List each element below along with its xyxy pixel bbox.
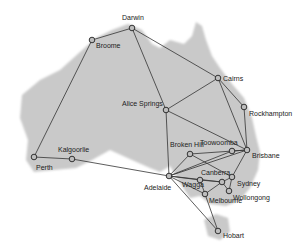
label-hobart: Hobart xyxy=(223,232,244,239)
node-broome[interactable] xyxy=(89,37,95,43)
label-perth: Perth xyxy=(36,164,53,171)
label-darwin: Darwin xyxy=(122,14,144,21)
label-alice: Alice Springs xyxy=(122,100,163,108)
node-cairns[interactable] xyxy=(215,75,221,81)
label-kalgoorlie: Kalgoorlie xyxy=(58,146,89,154)
node-alice[interactable] xyxy=(163,107,169,113)
label-canberra: Canberra xyxy=(201,169,230,176)
label-cairns: Cairns xyxy=(223,75,244,82)
australia-map: DarwinBroomeCairnsRockhamptonAlice Sprin… xyxy=(0,0,301,251)
node-brokenhill[interactable] xyxy=(187,151,193,157)
label-brokenhill: Broken Hill xyxy=(170,141,204,148)
label-wagga: Wagga xyxy=(182,181,204,189)
label-brisbane: Brisbane xyxy=(252,152,280,159)
label-toowoomba: Toowoomba xyxy=(200,139,238,146)
label-rockhampton: Rockhampton xyxy=(249,110,292,118)
node-kalgoorlie[interactable] xyxy=(69,156,75,162)
node-wollongong[interactable] xyxy=(226,188,232,194)
node-brisbane[interactable] xyxy=(244,147,250,153)
label-melbourne: Melbourne xyxy=(209,197,242,204)
node-perth[interactable] xyxy=(31,154,37,160)
network-map: DarwinBroomeCairnsRockhamptonAlice Sprin… xyxy=(0,0,301,251)
landmass xyxy=(20,22,260,240)
node-melbourne[interactable] xyxy=(202,191,208,197)
node-darwin[interactable] xyxy=(129,25,135,31)
label-sydney: Sydney xyxy=(237,180,261,188)
node-rockhampton[interactable] xyxy=(241,104,247,110)
node-canberra[interactable] xyxy=(219,179,225,185)
node-hobart[interactable] xyxy=(215,228,221,234)
mainland-shape xyxy=(20,22,260,206)
node-adelaide[interactable] xyxy=(166,173,172,179)
label-adelaide: Adelaide xyxy=(144,184,171,191)
label-broome: Broome xyxy=(96,42,121,49)
node-toowoomba[interactable] xyxy=(229,148,235,154)
